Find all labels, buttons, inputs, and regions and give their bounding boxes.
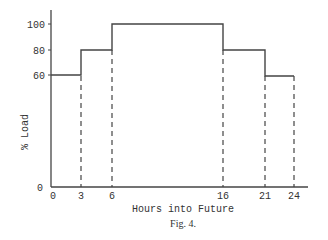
x-tick-label-21: 21 xyxy=(259,191,271,202)
y-axis-label: % Load xyxy=(20,114,31,150)
x-axis-label: Hours into Future xyxy=(132,204,234,215)
x-tick-label-16: 16 xyxy=(217,191,229,202)
load-step-line xyxy=(51,24,294,76)
figure-caption: Fig. 4. xyxy=(170,218,196,229)
x-tick-label-24: 24 xyxy=(288,191,300,202)
y-tick-label-60: 60 xyxy=(33,71,45,82)
dashed-guides xyxy=(81,50,294,187)
y-tick-label-100: 100 xyxy=(27,20,45,31)
y-tick-label-80: 80 xyxy=(33,46,45,57)
step-chart: 100 80 60 0 % Load 0 3 6 16 21 24 Hours … xyxy=(0,0,328,240)
y-tick-label-0: 0 xyxy=(37,183,43,194)
x-tick-label-6: 6 xyxy=(109,191,115,202)
x-tick-label-3: 3 xyxy=(78,191,84,202)
x-tick-label-0: 0 xyxy=(50,191,56,202)
